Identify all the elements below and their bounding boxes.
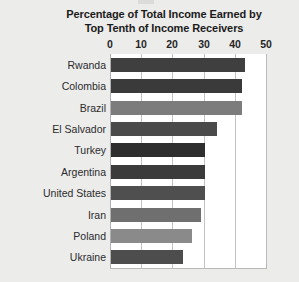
x-tick-label-0: 0 bbox=[107, 38, 113, 50]
category-label-colombia: Colombia bbox=[0, 80, 106, 92]
bar-rwanda bbox=[111, 58, 245, 72]
category-axis-labels: RwandaColombiaBrazilEl SalvadorTurkeyArg… bbox=[0, 54, 106, 268]
category-label-iran: Iran bbox=[0, 209, 106, 221]
category-label-poland: Poland bbox=[0, 230, 106, 242]
x-tick-label-30: 30 bbox=[198, 38, 210, 50]
chart-title-line-1: Percentage of Total Income Earned by bbox=[50, 8, 278, 22]
bar-brazil bbox=[111, 101, 242, 115]
bar-iran bbox=[111, 208, 201, 222]
bar-argentina bbox=[111, 165, 205, 179]
category-label-brazil: Brazil bbox=[0, 102, 106, 114]
category-label-turkey: Turkey bbox=[0, 144, 106, 156]
bar-colombia bbox=[111, 79, 242, 93]
category-label-united-states: United States bbox=[0, 187, 106, 199]
category-label-ukraine: Ukraine bbox=[0, 251, 106, 263]
bar-ukraine bbox=[111, 250, 183, 264]
category-label-el-salvador: El Salvador bbox=[0, 123, 106, 135]
bar-chart-figure: Percentage of Total Income Earned by Top… bbox=[0, 0, 299, 282]
x-axis-tick-labels: 01020304050 bbox=[110, 38, 267, 52]
bar-el-salvador bbox=[111, 122, 217, 136]
category-label-argentina: Argentina bbox=[0, 166, 106, 178]
bar-poland bbox=[111, 229, 192, 243]
x-tick-label-10: 10 bbox=[135, 38, 147, 50]
x-tick-label-20: 20 bbox=[166, 38, 178, 50]
chart-title: Percentage of Total Income Earned by Top… bbox=[50, 8, 278, 35]
category-label-rwanda: Rwanda bbox=[0, 59, 106, 71]
x-tick-label-40: 40 bbox=[229, 38, 241, 50]
x-tick-label-50: 50 bbox=[260, 38, 272, 50]
bars-layer bbox=[111, 54, 267, 268]
bar-united-states bbox=[111, 186, 205, 200]
scan-artifact bbox=[138, 0, 154, 4]
bar-turkey bbox=[111, 143, 205, 157]
chart-title-line-2: Top Tenth of Income Receivers bbox=[50, 22, 278, 36]
